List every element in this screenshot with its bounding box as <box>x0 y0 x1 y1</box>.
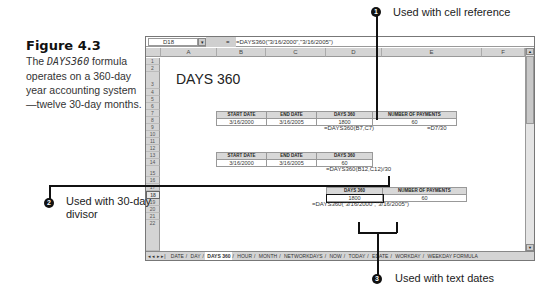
table-cell-reference: START DATE END DATE DAYS 360 NUMBER OF P… <box>216 111 457 126</box>
header-number-of-payments[interactable]: NUMBER OF PAYMENTS <box>383 188 467 195</box>
callout-1-marker-icon: 1 <box>371 7 381 17</box>
tab-today[interactable]: TODAY <box>347 252 368 260</box>
scroll-down-arrow-icon[interactable]: ▼ <box>526 244 534 251</box>
row-header[interactable]: 5 <box>146 96 160 103</box>
formula-text-d13: =DAYS360(B12,C12)/30 <box>326 166 391 172</box>
formula-input[interactable]: =DAYS360("3/16/2000","3/16/2005") <box>236 37 333 47</box>
header-start-date[interactable]: START DATE <box>217 112 267 119</box>
cell-b7[interactable]: 3/16/2000 <box>217 119 267 126</box>
table-text-dates: DAYS 360 NUMBER OF PAYMENTS 1800 60 <box>326 187 467 202</box>
sheet-tabs-bar: ◂ ◂ ▸ ▸| DATE/ DAY/ DAYS 360/ HOUR/ MONT… <box>146 251 534 260</box>
tab-networkdays[interactable]: NETWORKDAYS <box>282 252 325 260</box>
callout-3-marker-icon: 3 <box>372 274 382 284</box>
column-header-c[interactable]: C <box>266 48 326 57</box>
sheet-title: DAYS 360 <box>176 71 240 87</box>
formula-bar: D18 ▾ = =DAYS360("3/16/2000","3/16/2005"… <box>146 37 534 47</box>
callout-3-text: Used with text dates <box>395 272 494 285</box>
select-all-corner[interactable] <box>146 48 161 57</box>
figure-description: The DAYS360 formula operates on a 360-da… <box>26 54 146 111</box>
scroll-thumb[interactable] <box>526 56 534 124</box>
row-header[interactable]: 15 <box>146 166 160 177</box>
row-header[interactable]: 13 <box>146 152 160 159</box>
column-header-e[interactable]: E <box>382 48 482 57</box>
column-header-a[interactable]: A <box>161 48 217 57</box>
header-end-date[interactable]: END DATE <box>267 112 317 119</box>
tab-date[interactable]: DATE <box>169 252 186 260</box>
figure-caption: Figure 4.3 The DAYS360 formula operates … <box>26 38 146 111</box>
table-30-day-divisor: START DATE END DATE DAYS 360 3/16/2000 3… <box>216 152 373 167</box>
figure-label: Figure 4.3 <box>26 38 146 53</box>
header-days-360[interactable]: DAYS 360 <box>317 112 373 119</box>
callout-2-leader-horizontal <box>49 185 390 187</box>
row-header[interactable]: 22 <box>146 220 160 251</box>
row-header[interactable]: 9 <box>146 124 160 131</box>
row-header[interactable]: 7 <box>146 110 160 117</box>
row-header[interactable]: 14 <box>146 159 160 166</box>
cell-b12[interactable]: 3/16/2000 <box>217 160 267 167</box>
tab-month[interactable]: MONTH <box>257 252 279 260</box>
equals-icon[interactable]: = <box>226 37 230 47</box>
callout-1-text: Used with cell reference <box>393 6 510 19</box>
formula-text-d8: =DAYS360(B7,C7) <box>324 125 374 131</box>
tab-now[interactable]: NOW <box>328 252 344 260</box>
cell-c7[interactable]: 3/16/2005 <box>267 119 317 126</box>
formula-bar-buttons <box>206 37 236 47</box>
tab-hour[interactable]: HOUR <box>235 252 254 260</box>
row-header[interactable]: 10 <box>146 131 160 138</box>
row-header[interactable]: 3 <box>146 72 160 89</box>
cell-c12[interactable]: 3/16/2005 <box>267 160 317 167</box>
tab-workday[interactable]: WORKDAY <box>393 252 422 260</box>
row-header[interactable]: 2 <box>146 65 160 72</box>
tab-days-360[interactable]: DAYS 360 <box>205 252 232 260</box>
header-days-360[interactable]: DAYS 360 <box>317 153 373 160</box>
name-box-dropdown[interactable]: ▾ <box>198 38 206 46</box>
column-header-f[interactable]: F <box>482 48 525 57</box>
spreadsheet-window: D18 ▾ = =DAYS360("3/16/2000","3/16/2005"… <box>145 36 535 261</box>
tab-day[interactable]: DAY <box>189 252 203 260</box>
header-number-of-payments[interactable]: NUMBER OF PAYMENTS <box>373 112 457 119</box>
row-header[interactable]: 1 <box>146 58 160 65</box>
function-name: DAYS360 <box>47 56 89 67</box>
formula-text-d19: =DAYS360("3/16/2000","3/16/2005") <box>312 201 409 207</box>
name-box[interactable]: D18 <box>148 38 198 46</box>
column-header-b[interactable]: B <box>217 48 266 57</box>
vertical-scrollbar[interactable]: ▲ ▼ <box>525 48 534 251</box>
row-header[interactable]: 4 <box>146 89 160 96</box>
column-header-d[interactable]: D <box>326 48 382 57</box>
row-header[interactable]: 12 <box>146 145 160 152</box>
callout-2-marker-icon: 2 <box>44 198 54 208</box>
tab-edate[interactable]: EDATE <box>370 252 390 260</box>
row-header[interactable]: 8 <box>146 117 160 124</box>
row-header[interactable]: 16 <box>146 177 160 184</box>
callout-3-leader-line <box>377 232 379 277</box>
header-days-360[interactable]: DAYS 360 <box>327 188 383 195</box>
tab-weekday-formula[interactable]: WEEKDAY FORMULA <box>425 252 479 260</box>
row-header[interactable]: 6 <box>146 103 160 110</box>
tab-navigation-arrows-icon[interactable]: ◂ ◂ ▸ ▸| <box>146 252 167 260</box>
formula-text-e8: =D7/30 <box>427 125 447 131</box>
header-start-date[interactable]: START DATE <box>217 153 267 160</box>
callout-2-text: Used with 30-day divisor <box>66 195 156 221</box>
header-end-date[interactable]: END DATE <box>267 153 317 160</box>
row-header[interactable]: 11 <box>146 138 160 145</box>
scroll-up-arrow-icon[interactable]: ▲ <box>526 48 534 55</box>
callout-1-leader-line <box>376 12 378 120</box>
